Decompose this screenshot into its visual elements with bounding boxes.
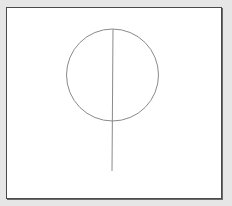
drawing-canvas <box>0 0 232 206</box>
vertical-line <box>112 29 113 171</box>
